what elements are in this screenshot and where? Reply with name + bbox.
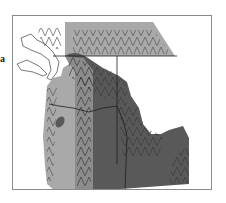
cascade-hatch [77,76,91,186]
map-frame [12,15,212,190]
panel-label: a [0,54,5,64]
interior-hatch-east [117,96,163,156]
vancouver-island-outline [17,60,47,76]
map-canvas [13,16,212,190]
